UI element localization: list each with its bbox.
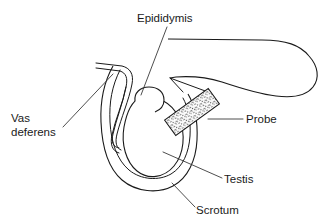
label-vas-deferens-line2: deferens bbox=[11, 126, 56, 138]
anatomical-diagram: Epididymis Vas deferens Probe Testis Scr… bbox=[0, 0, 327, 221]
label-vas-deferens-line1: Vas bbox=[11, 112, 30, 124]
label-scrotum: Scrotum bbox=[196, 204, 239, 216]
label-probe: Probe bbox=[246, 113, 277, 125]
finger-outline bbox=[168, 39, 317, 97]
label-testis: Testis bbox=[224, 173, 254, 185]
label-epididymis: Epididymis bbox=[137, 12, 193, 24]
